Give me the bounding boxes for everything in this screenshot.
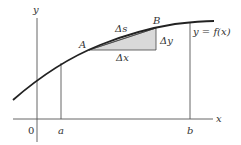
curve-label: y = f(x) [192, 26, 231, 37]
a-label: a [58, 125, 64, 136]
point-b-label: B [152, 15, 160, 26]
delta-y-label: Δy [159, 35, 173, 46]
delta-s-label: Δs [114, 23, 127, 34]
curve-f [13, 21, 214, 100]
origin-label: 0 [28, 125, 34, 136]
arc-length-diagram: y x 0 a b A B Δs Δy Δx y = f(x) [0, 0, 241, 145]
b-label: b [187, 125, 193, 136]
x-axis-label: x [216, 113, 222, 124]
y-axis-label: y [32, 4, 39, 15]
point-a-label: A [78, 39, 86, 50]
delta-x-label: Δx [115, 52, 129, 63]
